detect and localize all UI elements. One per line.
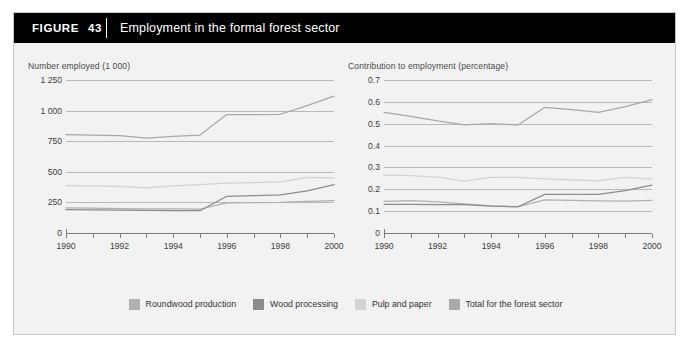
- series-line: [384, 185, 652, 207]
- legend-item: Roundwood production: [129, 299, 236, 310]
- y-axis-tick-label: 0.5: [346, 119, 380, 129]
- header-divider: [106, 18, 107, 38]
- x-axis-tick-label: 1994: [482, 241, 501, 251]
- figure-card: FIGURE 43 Employment in the formal fores…: [13, 12, 676, 335]
- x-axis-tick: [93, 234, 94, 238]
- x-axis-tick: [411, 234, 412, 238]
- x-axis-tick: [254, 234, 255, 238]
- legend-item: Total for the forest sector: [449, 299, 563, 310]
- y-axis-tick-label: 0: [28, 228, 62, 238]
- x-axis-tick-label: 1996: [217, 241, 236, 251]
- figure-badge: FIGURE 43: [32, 13, 102, 43]
- x-axis-tick: [120, 234, 121, 238]
- chart-left-axis-title: Number employed (1 000): [28, 61, 130, 71]
- legend-label: Wood processing: [270, 299, 338, 309]
- x-axis-tick-label: 2000: [324, 241, 343, 251]
- y-axis-tick-label: 0.4: [346, 141, 380, 151]
- chart-left-y-axis-labels: 02505007501 0001 250: [28, 80, 62, 233]
- y-axis-tick-label: 0: [346, 228, 380, 238]
- x-axis-tick: [438, 234, 439, 238]
- x-axis-tick: [384, 234, 385, 238]
- x-axis-tick: [146, 234, 147, 238]
- figure-number: 43: [88, 22, 102, 34]
- y-axis-tick-label: 750: [28, 136, 62, 146]
- x-axis-tick: [307, 234, 308, 238]
- x-axis-tick: [464, 234, 465, 238]
- x-axis-tick: [625, 234, 626, 238]
- x-axis-tick: [518, 234, 519, 238]
- series-line: [66, 185, 334, 211]
- legend-swatch: [449, 299, 460, 310]
- x-axis-origin-tick: [384, 229, 385, 234]
- figure-title: Employment in the formal forest sector: [120, 13, 340, 43]
- figure-badge-label: FIGURE: [32, 22, 79, 34]
- chart-right-axis-title: Contribution to employment (percentage): [348, 61, 508, 71]
- chart-panel-contribution: Contribution to employment (percentage) …: [348, 61, 670, 276]
- chart-right-y-axis-labels: 00.10.20.30.40.50.60.7: [348, 80, 380, 233]
- y-axis-tick-label: 0.7: [346, 75, 380, 85]
- x-axis-tick-label: 1994: [164, 241, 183, 251]
- y-axis-tick-label: 0.6: [346, 97, 380, 107]
- y-axis-tick-label: 1 000: [28, 106, 62, 116]
- series-line: [384, 200, 652, 207]
- series-line: [66, 177, 334, 188]
- series-line: [384, 175, 652, 181]
- y-axis-tick-label: 0.3: [346, 162, 380, 172]
- legend-swatch: [129, 299, 140, 310]
- x-axis-tick-label: 1990: [374, 241, 393, 251]
- series-line: [384, 100, 652, 125]
- x-axis-tick-label: 1998: [271, 241, 290, 251]
- x-axis-tick: [334, 234, 335, 238]
- legend-label: Pulp and paper: [372, 299, 432, 309]
- x-axis-tick-label: 1998: [589, 241, 608, 251]
- chart-series-group: [66, 80, 334, 233]
- x-axis-tick-label: 1992: [428, 241, 447, 251]
- chart-panel-number-employed: Number employed (1 000) 02505007501 0001…: [28, 61, 350, 276]
- chart-legend: Roundwood productionWood processingPulp …: [14, 296, 676, 312]
- series-line: [66, 201, 334, 209]
- x-axis-tick: [173, 234, 174, 238]
- legend-label: Roundwood production: [146, 299, 236, 309]
- x-axis-tick: [66, 234, 67, 238]
- x-axis-tick-label: 1996: [535, 241, 554, 251]
- figure-header: FIGURE 43 Employment in the formal fores…: [14, 13, 676, 43]
- chart-left-plot-area: 199019921994199619982000: [66, 80, 334, 233]
- legend-item: Pulp and paper: [355, 299, 432, 310]
- legend-label: Total for the forest sector: [466, 299, 563, 309]
- x-axis-tick-label: 2000: [642, 241, 661, 251]
- x-axis-tick: [227, 234, 228, 238]
- y-axis-tick-label: 250: [28, 197, 62, 207]
- x-axis-tick: [200, 234, 201, 238]
- x-axis-tick: [545, 234, 546, 238]
- y-axis-tick-label: 1 250: [28, 75, 62, 85]
- x-axis-tick: [652, 234, 653, 238]
- x-axis-tick: [280, 234, 281, 238]
- x-axis-tick: [598, 234, 599, 238]
- chart-right-plot-area: 199019921994199619982000: [384, 80, 652, 233]
- y-axis-tick-label: 500: [28, 167, 62, 177]
- chart-series-group: [384, 80, 652, 233]
- legend-swatch: [253, 299, 264, 310]
- legend-item: Wood processing: [253, 299, 338, 310]
- x-axis-tick-label: 1990: [56, 241, 75, 251]
- y-axis-tick-label: 0.1: [346, 206, 380, 216]
- x-axis-origin-tick: [66, 229, 67, 234]
- x-axis-tick: [491, 234, 492, 238]
- legend-swatch: [355, 299, 366, 310]
- y-axis-tick-label: 0.2: [346, 184, 380, 194]
- x-axis-tick-label: 1992: [110, 241, 129, 251]
- series-line: [66, 96, 334, 138]
- x-axis-tick: [572, 234, 573, 238]
